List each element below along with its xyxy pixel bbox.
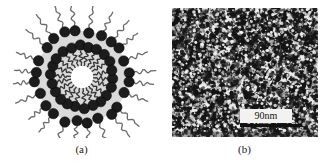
micelle-diagram [0,6,163,138]
micelle-core [71,66,93,88]
scale-bar-label: 90nm [255,111,278,121]
panel-a-micelle-schematic: (a) [0,0,163,165]
panel-b-tem-micrograph: 90nm (b) [163,0,326,165]
panel-b-caption: (b) [163,143,326,155]
scale-bar-label-box: 90nm [240,109,292,123]
scale-bar: 90nm [240,109,308,131]
panel-a-caption: (a) [0,143,163,155]
figure-root: (a) 90nm (b) [0,0,326,165]
scale-bar-line [240,124,302,127]
tem-image-frame: 90nm [172,8,318,137]
